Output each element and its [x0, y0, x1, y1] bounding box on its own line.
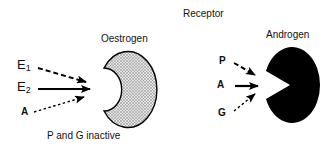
ligand-e2-label: E2 — [17, 80, 31, 95]
androgen-receptor-shape — [266, 47, 320, 123]
ligand-g-label: G — [218, 108, 226, 118]
ligand-a-left-label: A — [21, 107, 28, 117]
arrow-g-dotted — [234, 94, 255, 111]
ligand-p-label: P — [219, 56, 226, 66]
ligand-a-right-label: A — [217, 80, 224, 90]
oestrogen-label: Oestrogen — [101, 34, 148, 44]
diagram-title: Receptor — [183, 9, 224, 19]
inactive-note: P and G inactive — [47, 131, 120, 141]
oestrogen-receptor-shape — [104, 52, 157, 128]
ligand-e1-label: E1 — [17, 58, 31, 73]
receptor-diagram — [0, 0, 332, 148]
androgen-label: Androgen — [266, 30, 309, 40]
arrow-e1-dashed — [38, 68, 86, 82]
arrow-p-dashed — [234, 63, 255, 75]
arrow-a-dotted — [34, 97, 84, 112]
